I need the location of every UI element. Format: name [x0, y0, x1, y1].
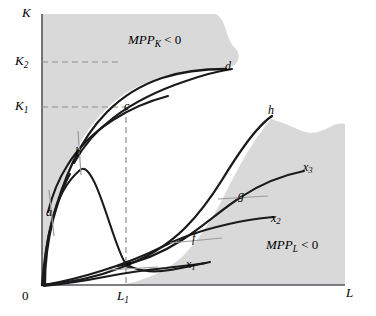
- point-label-c: c: [124, 100, 129, 112]
- origin-label: 0: [22, 289, 29, 302]
- mpp-k-negative-label: MPPK < 0: [128, 33, 181, 49]
- mpp-l-base: MPP: [266, 237, 293, 252]
- l1-tick-label: L1: [117, 289, 129, 305]
- isoquant-x3-label: x3: [303, 161, 313, 175]
- point-label-d: d: [225, 60, 231, 72]
- k-axis-label: K: [22, 6, 31, 19]
- isoquant-ridge-line-figure: K L 0 K2 K1 L1 MPPK < 0 MPPL < 0 x1 x2 x…: [0, 0, 376, 316]
- point-label-g: g: [238, 189, 244, 201]
- k1-base: K: [15, 98, 24, 113]
- k2-tick-label: K2: [15, 54, 28, 70]
- mpp-k-base: MPP: [128, 32, 155, 47]
- x2-sub: 2: [276, 216, 280, 226]
- isoquant-x1-label: x1: [186, 258, 196, 272]
- point-label-e: e: [126, 258, 131, 270]
- point-label-h: h: [268, 104, 274, 116]
- k1-tick-label: K1: [15, 99, 28, 115]
- point-label-a: a: [46, 206, 52, 218]
- k1-sub: 1: [24, 105, 29, 115]
- l1-sub: 1: [124, 295, 129, 305]
- point-label-f: f: [192, 232, 195, 244]
- mpp-l-relation: < 0: [298, 237, 318, 252]
- k2-base: K: [15, 53, 24, 68]
- mpp-k-relation: < 0: [161, 32, 181, 47]
- k2-sub: 2: [24, 60, 29, 70]
- l-axis-label: L: [346, 286, 353, 299]
- point-label-b: b: [75, 146, 81, 158]
- x3-sub: 3: [308, 165, 312, 175]
- isoquant-x2-label: x2: [271, 212, 281, 226]
- x1-sub: 1: [191, 262, 195, 272]
- mpp-l-negative-label: MPPL < 0: [266, 238, 318, 254]
